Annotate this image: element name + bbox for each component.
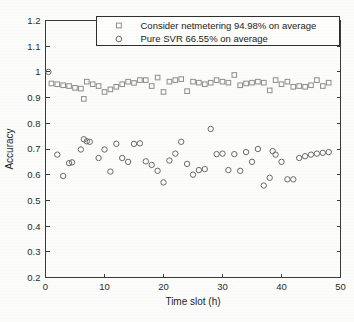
data-point-circle [179,139,184,144]
data-point-square [90,82,95,87]
x-axis-title: Time slot (h) [165,296,220,307]
data-point-square [55,82,60,87]
data-point-circle [273,152,278,157]
data-point-circle [161,180,166,185]
data-point-circle [149,162,154,167]
x-tick-label: 50 [335,281,346,292]
data-point-square [303,85,308,90]
data-point-circle [173,151,178,156]
data-point-square [167,79,172,84]
series-2 [46,69,332,188]
data-point-square [326,80,331,85]
data-point-square [262,80,267,85]
data-point-square [256,79,261,84]
data-point-square [82,97,87,102]
data-point-square [321,84,326,89]
data-point-square [220,79,225,84]
legend-label: Pure SVR 66.55% on average [141,33,268,44]
data-point-square [244,81,249,86]
data-point-circle [297,155,302,160]
data-point-square [315,78,320,83]
data-point-circle [78,147,83,152]
data-point-circle [184,161,189,166]
data-point-square [179,77,184,82]
data-point-circle [202,166,207,171]
data-point-circle [208,126,213,131]
y-tick-label: 1.2 [27,15,40,26]
series-1 [49,73,331,102]
data-point-square [291,85,296,90]
data-point-circle [102,147,107,152]
data-point-square [297,84,302,89]
data-point-square [285,79,290,84]
data-point-circle [143,159,148,164]
data-point-square [61,83,66,88]
data-point-circle [326,149,331,154]
data-point-square [132,81,137,86]
x-tick-label: 10 [99,281,110,292]
axes-frame [46,21,341,278]
data-point-square [126,79,131,84]
y-tick-label: 0.3 [27,246,40,257]
y-tick-label: 1.1 [27,41,40,52]
data-point-circle [108,169,113,174]
data-point-circle [196,167,201,172]
data-point-circle [137,141,142,146]
data-point-circle [61,173,66,178]
data-point-circle [131,141,136,146]
data-point-square [144,78,149,83]
data-point-square [250,80,255,85]
data-point-square [191,79,196,84]
data-point-circle [308,152,313,157]
data-point-square [208,80,213,85]
data-point-circle [167,158,172,163]
data-point-square [85,79,90,84]
x-tick-label: 0 [43,281,48,292]
y-tick-label: 0.9 [27,92,40,103]
data-point-square [49,81,54,86]
data-point-circle [255,146,260,151]
data-point-circle [279,159,284,164]
scatter-plot: 0.20.30.40.50.60.70.80.911.11.2010203040… [0,0,354,322]
y-tick-label: 0.7 [27,143,40,154]
data-point-circle [214,151,219,156]
data-point-circle [114,141,119,146]
data-point-square [279,82,284,87]
data-points [46,69,332,188]
data-point-square [67,84,72,89]
data-point-circle [155,168,160,173]
data-point-square [155,75,160,80]
chart-figure: 0.20.30.40.50.60.70.80.911.11.2010203040… [0,0,354,322]
data-point-square [149,84,154,89]
data-point-circle [232,151,237,156]
data-point-circle [291,177,296,182]
data-point-circle [125,159,130,164]
data-point-circle [267,175,272,180]
data-point-circle [96,155,101,160]
legend-label: Consider netmetering 94.98% on average [141,20,317,31]
data-point-square [114,85,119,90]
x-tick-label: 20 [158,281,169,292]
data-point-square [226,80,231,85]
y-axis-title: Accuracy [4,128,15,169]
data-point-circle [320,150,325,155]
data-point-square [232,73,237,78]
y-tick-label: 0.2 [27,272,40,283]
data-point-square [214,78,219,83]
data-point-square [173,78,178,83]
data-point-square [138,78,143,83]
data-point-circle [261,183,266,188]
data-point-square [79,86,84,91]
data-point-circle [190,172,195,177]
data-point-square [309,83,314,88]
data-point-square [273,78,278,83]
y-tick-label: 0.8 [27,118,40,129]
data-point-circle [220,151,225,156]
data-point-square [267,88,272,93]
x-tick-label: 30 [217,281,228,292]
data-point-square [108,87,113,92]
data-point-circle [285,177,290,182]
data-point-circle [314,151,319,156]
x-tick-label: 40 [276,281,287,292]
data-point-square [161,90,166,95]
